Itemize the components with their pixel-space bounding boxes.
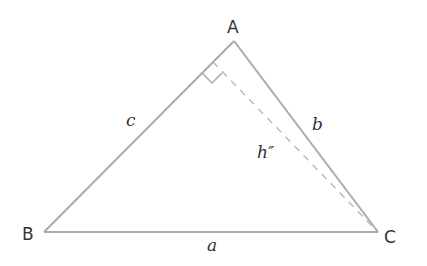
side-label-b: b (312, 114, 323, 134)
side-b-line (234, 41, 378, 232)
side-label-a: a (207, 235, 217, 255)
right-angle-marker (202, 73, 222, 83)
altitude-label: h″ (257, 142, 275, 162)
vertex-label-a: A (227, 17, 239, 37)
vertex-label-c: C (384, 227, 396, 247)
side-c-line (44, 41, 234, 232)
vertex-label-b: B (22, 224, 34, 244)
altitude-dashed-line (213, 62, 374, 228)
side-label-c: c (126, 110, 136, 130)
triangle-diagram: A B C c b a h″ (0, 0, 427, 266)
